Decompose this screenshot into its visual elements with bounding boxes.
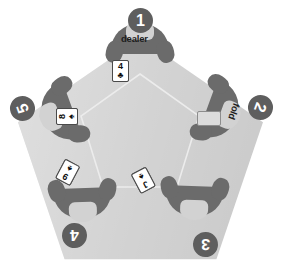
seat-4-number: 4 bbox=[70, 227, 79, 243]
card[interactable] bbox=[197, 111, 221, 126]
seat-3-number: 3 bbox=[201, 236, 210, 252]
card[interactable]: 4 ♣ bbox=[112, 60, 129, 82]
card-suit: ♠ bbox=[66, 163, 74, 173]
card-suit: ♠ bbox=[67, 114, 76, 119]
seat-1-status-label: dealer bbox=[121, 33, 148, 44]
card-table-board: 1 dealer 3 ♣ 3 ♠ 4 ♣ 2 fold 3 bbox=[0, 0, 281, 264]
card[interactable]: 8 ♠ bbox=[56, 108, 78, 125]
card-suit: ♣ bbox=[118, 71, 124, 80]
seat-5-number: 5 bbox=[13, 102, 31, 116]
card-suit: ♠ bbox=[137, 171, 145, 181]
seat-2-number: 2 bbox=[251, 101, 269, 115]
seat-1-number: 1 bbox=[136, 13, 145, 29]
seat-1-number-badge: 1 bbox=[128, 8, 153, 33]
